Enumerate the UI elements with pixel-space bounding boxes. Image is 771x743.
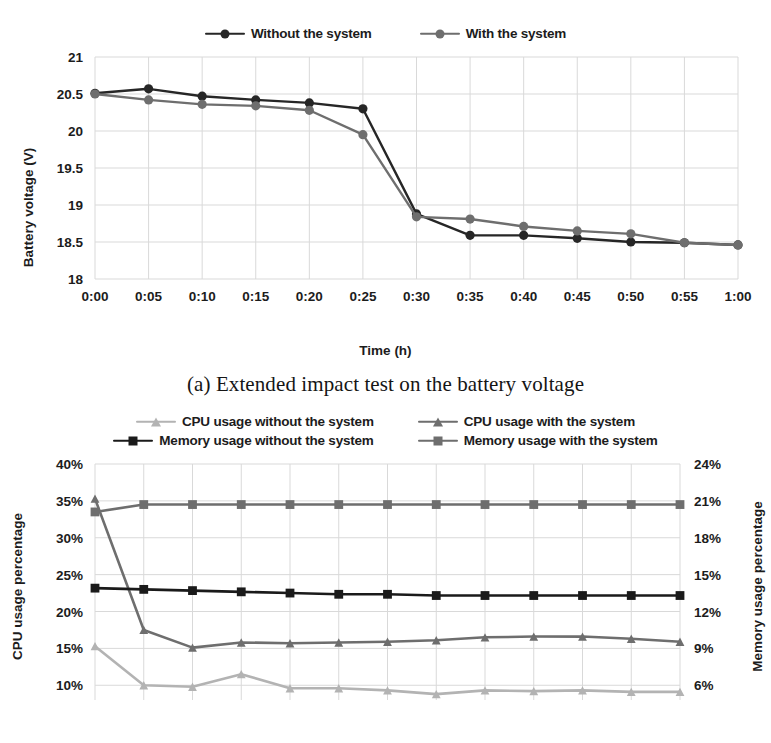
data-point-triangle (91, 494, 100, 502)
y-axis-tick-label: 21 (68, 50, 84, 65)
x-axis-tick-label: 0:45 (564, 289, 592, 304)
data-point-circle (519, 222, 528, 231)
y2-axis-tick-label: 6% (694, 678, 714, 693)
data-point-circle (519, 231, 528, 240)
y-axis-tick-label: 18 (68, 272, 84, 287)
chart-battery-voltage: 1818.51919.52020.5210:000:050:100:150:20… (0, 41, 771, 341)
data-point-circle (305, 106, 314, 115)
x-axis-tick-label: 0:10 (189, 289, 216, 304)
y2-axis-title-memory-usage: Memory usage percentage (750, 487, 765, 687)
legend-figure-b: CPU usage without the system CPU usage w… (0, 404, 771, 448)
legend-item-without-the-system[interactable]: Without the system (205, 26, 372, 41)
x-axis-tick-label: 0:15 (242, 289, 270, 304)
y-axis-tick-label: 20.5 (57, 87, 84, 102)
data-point-circle (251, 101, 260, 110)
legend-label: Without the system (251, 26, 372, 41)
data-point-square (334, 590, 343, 599)
y-axis-title-battery-voltage: Battery voltage (V) (21, 128, 36, 288)
y2-axis-tick-label: 24% (694, 457, 721, 472)
legend-item-with-the-system[interactable]: With the system (420, 26, 566, 41)
plot-frame (95, 464, 680, 700)
data-point-square (481, 500, 490, 509)
x-axis-tick-label: 0:20 (296, 289, 323, 304)
legend-marker-triangle-gray (418, 415, 458, 429)
y-axis-tick-label: 20 (68, 124, 83, 139)
y-axis-tick-label: 19.5 (57, 161, 84, 176)
x-axis-tick-label: 0:00 (81, 289, 108, 304)
data-point-square (529, 591, 538, 600)
legend-item-memory-usage-with-the-system[interactable]: Memory usage with the system (418, 433, 658, 448)
x-axis-tick-label: 0:55 (671, 289, 699, 304)
data-point-circle (90, 89, 99, 98)
y2-axis-tick-label: 15% (694, 568, 721, 583)
data-point-square (188, 586, 197, 595)
data-point-circle (680, 238, 689, 247)
data-point-square (286, 589, 295, 598)
data-point-circle (144, 95, 153, 104)
data-point-square (91, 584, 100, 593)
x-axis-tick-label: 0:50 (617, 289, 644, 304)
x-axis-tick-label: 0:05 (135, 289, 163, 304)
x-axis-tick-label: 0:35 (457, 289, 485, 304)
data-point-square (383, 500, 392, 509)
data-point-triangle (91, 642, 100, 650)
data-point-circle (733, 240, 742, 249)
figure-cpu-memory-usage: CPU usage without the system CPU usage w… (0, 404, 771, 743)
legend-marker-circle-dark (205, 27, 245, 41)
data-point-square (188, 500, 197, 509)
y-axis-tick-label: 10% (56, 678, 83, 693)
plot-frame (95, 57, 738, 279)
y-axis-tick-label: 20% (56, 605, 83, 620)
data-point-square (432, 591, 441, 600)
x-axis-title-time: Time (h) (0, 343, 771, 358)
y2-axis-tick-label: 21% (694, 494, 721, 509)
data-point-circle (465, 231, 474, 240)
figure-caption-a: (a) Extended impact test on the battery … (0, 372, 771, 397)
legend-marker-square-gray (418, 434, 458, 448)
legend-label: With the system (466, 26, 566, 41)
data-point-square (578, 591, 587, 600)
legend-figure-a: Without the system With the system (0, 0, 771, 41)
y-axis-tick-label: 25% (56, 568, 83, 583)
data-point-square (334, 500, 343, 509)
legend-item-memory-usage-without-the-system[interactable]: Memory usage without the system (113, 433, 373, 448)
y2-axis-tick-label: 12% (694, 605, 721, 620)
legend-label: Memory usage with the system (464, 433, 658, 448)
y-axis-tick-label: 18.5 (57, 235, 84, 250)
y-axis-title-cpu-usage: CPU usage percentage (10, 492, 25, 682)
data-point-square (286, 500, 295, 509)
data-point-square (627, 500, 636, 509)
y-axis-tick-label: 40% (56, 457, 83, 472)
legend-item-cpu-usage-with-the-system[interactable]: CPU usage with the system (418, 414, 635, 429)
chart-cpu-memory-usage: 10%15%20%25%30%35%40%6%9%12%15%18%21%24% (0, 448, 771, 703)
data-point-circle (358, 104, 367, 113)
y-axis-tick-label: 35% (56, 494, 83, 509)
data-point-square (139, 585, 148, 594)
y-axis-tick-label: 19 (68, 198, 83, 213)
data-point-square (237, 587, 246, 596)
data-point-circle (198, 100, 207, 109)
x-axis-tick-label: 0:30 (403, 289, 430, 304)
legend-item-cpu-usage-without-the-system[interactable]: CPU usage without the system (136, 414, 374, 429)
legend-marker-triangle-light (136, 415, 176, 429)
data-point-circle (626, 229, 635, 238)
data-point-circle (144, 84, 153, 93)
data-point-circle (626, 237, 635, 246)
data-point-square (139, 500, 148, 509)
legend-label: Memory usage without the system (159, 433, 373, 448)
data-point-square (383, 590, 392, 599)
x-axis-tick-label: 1:00 (724, 289, 751, 304)
x-axis-tick-label: 0:40 (510, 289, 537, 304)
legend-label: CPU usage with the system (464, 414, 635, 429)
figure-battery-voltage: Without the system With the system Batte… (0, 0, 771, 404)
y2-axis-tick-label: 18% (694, 531, 721, 546)
data-point-square (432, 500, 441, 509)
legend-label: CPU usage without the system (182, 414, 374, 429)
data-point-square (529, 500, 538, 509)
data-point-circle (465, 214, 474, 223)
data-point-square (578, 500, 587, 509)
y-axis-tick-label: 30% (56, 531, 83, 546)
data-point-square (676, 500, 685, 509)
data-point-square (676, 591, 685, 600)
data-point-circle (573, 226, 582, 235)
